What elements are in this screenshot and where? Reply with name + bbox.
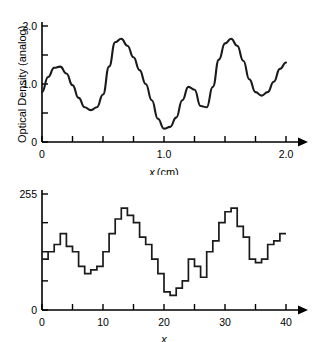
- svg-text:20: 20: [158, 316, 170, 328]
- chart-panel-analog: Optical Density (analog) 01.02.001.02.0 …: [0, 0, 315, 175]
- analog-density-curve: [42, 39, 286, 129]
- svg-text:40: 40: [280, 316, 292, 328]
- digital-plot-svg: 0255010203040 x: [0, 170, 315, 342]
- analog-axes: [42, 22, 308, 147]
- svg-text:0: 0: [39, 316, 45, 328]
- svg-text:2.0: 2.0: [279, 148, 294, 160]
- svg-text:0: 0: [31, 136, 37, 148]
- analog-plot-svg: 01.02.001.02.0 x(cm): [0, 0, 315, 175]
- svg-text:0: 0: [39, 148, 45, 160]
- svg-text:30: 30: [219, 316, 231, 328]
- chart-panel-digital: Digitized Optical Density 0255010203040 …: [0, 170, 315, 342]
- svg-text:1.0: 1.0: [157, 148, 172, 160]
- svg-text:255: 255: [19, 188, 37, 200]
- figure-container: Optical Density (analog) 01.02.001.02.0 …: [0, 0, 315, 342]
- digitized-density-step-plot: [42, 208, 286, 295]
- svg-text:0: 0: [31, 304, 37, 316]
- digital-tick-labels: 0255010203040: [19, 188, 292, 328]
- svg-text:10: 10: [97, 316, 109, 328]
- y-axis-title-analog: Optical Density (analog): [16, 26, 28, 143]
- x-axis-title-digital: x: [160, 333, 167, 342]
